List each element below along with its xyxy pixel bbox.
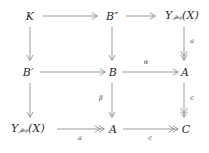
arrow-label-beta: β bbox=[99, 94, 103, 102]
node-Y-argument-top: (X) bbox=[182, 9, 199, 22]
node-Y-argument-bottom: (X) bbox=[28, 122, 45, 135]
arrow-A-to-C-vertical-epi bbox=[181, 83, 187, 117]
arrow-B-to-A-beta bbox=[109, 83, 115, 117]
node-Y-Pop-X-top: Y𝒫op(X) bbox=[165, 9, 199, 22]
node-K: K bbox=[26, 10, 34, 23]
node-B: B bbox=[109, 66, 117, 79]
node-A-bottom: A bbox=[109, 123, 117, 136]
arrow-K-to-Bdoubleprime bbox=[43, 13, 97, 19]
arrow-Bprime-to-Y bbox=[27, 83, 33, 117]
node-K-label: K bbox=[26, 10, 34, 23]
arrow-Y-to-A-epi bbox=[57, 126, 104, 132]
arrow-Bdoubleprime-to-Y bbox=[126, 13, 155, 19]
node-B-label: B bbox=[109, 66, 117, 79]
node-C: C bbox=[182, 123, 191, 136]
node-A-bottom-label: A bbox=[109, 123, 117, 136]
arrow-label-alpha: α bbox=[144, 58, 148, 66]
node-B-double-prime-mark: ″ bbox=[114, 10, 118, 23]
arrow-K-to-Bprime bbox=[27, 27, 33, 60]
arrow-B-to-A-alpha bbox=[122, 69, 178, 75]
arrow-Y-to-A-vertical-epi bbox=[181, 27, 187, 60]
commutative-diagram: K B″ Y𝒫op(X) B′ B A Y𝒫op(X) A C α β a c … bbox=[0, 0, 209, 153]
node-B-prime-mark: ′ bbox=[31, 66, 33, 79]
node-C-label: C bbox=[182, 123, 191, 136]
node-Y-Pop-X-bottom: Y𝒫op(X) bbox=[11, 122, 45, 135]
arrow-A-to-C-epi bbox=[123, 126, 178, 132]
node-B-double-prime: B″ bbox=[106, 10, 118, 23]
arrow-label-c-vertical: c bbox=[190, 94, 194, 102]
arrow-label-a-vertical: a bbox=[190, 37, 194, 45]
node-B-prime: B′ bbox=[23, 66, 34, 79]
arrow-Bprime-to-B bbox=[40, 69, 105, 75]
arrow-label-c-horizontal: c bbox=[148, 134, 152, 142]
arrow-label-a-horizontal: a bbox=[78, 134, 82, 142]
node-A-middle: A bbox=[181, 66, 189, 79]
arrow-Bdoubleprime-to-B bbox=[109, 27, 115, 60]
node-A-middle-label: A bbox=[181, 66, 189, 79]
